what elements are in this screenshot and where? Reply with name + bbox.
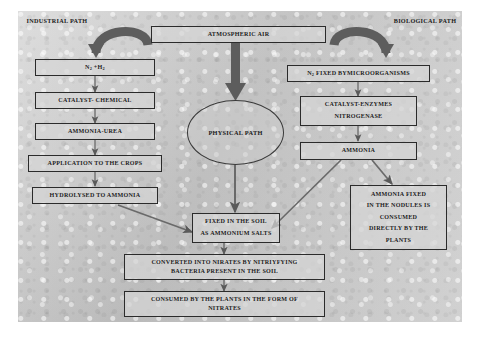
node-application-to-crops[interactable]: APPLICATION TO THE CROPS xyxy=(28,155,162,172)
node-ammonia-label: AMMONIA xyxy=(303,146,414,155)
node-fixed-in-the-soil-line2: AS AMMONIUM SALTS xyxy=(195,228,277,240)
industrial-path-curved-arrow xyxy=(88,32,148,58)
node-n2-h2[interactable]: N2 +H2 xyxy=(35,59,155,76)
node-fixed-in-the-soil[interactable]: FIXED IN THE SOIL AS AMMONIUM SALTS xyxy=(192,213,280,243)
node-fixed-in-the-soil-line1: FIXED IN THE SOIL xyxy=(195,216,277,228)
node-n2-fixed-by-microorganisms-label: N2 FIXED BYMICROORGANISMS xyxy=(290,69,427,79)
node-consumed-by-the-plants-line2: NITRATES xyxy=(127,304,322,313)
node-atmospheric-air[interactable]: ATMOSPHERIC AIR xyxy=(151,26,326,43)
node-catalyst-enzymes[interactable]: CATALYST-ENZYMES NITROGENASE xyxy=(300,96,417,126)
node-n2-h2-label: N2 +H2 xyxy=(38,63,152,73)
air-to-physical-path-arrow xyxy=(225,43,246,101)
node-hydrolysed-to-ammonia-label: HYDROLYSED TO AMMONIA xyxy=(35,191,155,200)
node-converted-into-nitrates-line1: CONVERTED INTO NIRATES BY NITRIYFYING xyxy=(127,258,322,267)
industrial-path-label-line2: PATH xyxy=(70,17,87,24)
node-catalyst-chemical-label: CATALYST- CHEMICAL xyxy=(38,96,152,105)
connector-ammonia-to-nodules xyxy=(372,160,392,184)
node-ammonia-fixed-in-nodules-line2: IN THE NODULES IS xyxy=(353,200,444,212)
node-converted-into-nitrates[interactable]: CONVERTED INTO NIRATES BY NITRIYFYING BA… xyxy=(124,254,325,280)
node-consumed-by-the-plants-line1: CONSUMED BY THE PLANTS IN THE FORM OF xyxy=(127,295,322,304)
node-ammonia[interactable]: AMMONIA xyxy=(300,142,417,160)
node-catalyst-enzymes-line1: CATALYST-ENZYMES xyxy=(303,99,414,111)
node-catalyst-chemical[interactable]: CATALYST- CHEMICAL xyxy=(35,92,155,109)
node-n2-fixed-by-microorganisms[interactable]: N2 FIXED BYMICROORGANISMS xyxy=(287,65,430,82)
node-ammonia-urea-label: AMMONIA-UREA xyxy=(38,127,152,136)
node-ammonia-fixed-in-nodules[interactable]: AMMONIA FIXED IN THE NODULES IS CONSUMED… xyxy=(350,185,447,250)
node-consumed-by-the-plants[interactable]: CONSUMED BY THE PLANTS IN THE FORM OF NI… xyxy=(124,291,325,317)
node-ammonia-fixed-in-nodules-line5: PLANTS xyxy=(353,235,444,247)
biological-path-label: BIOLOGICAL PATH xyxy=(390,16,460,27)
biological-path-label-line1: BIOLOGICAL xyxy=(394,17,437,24)
industrial-path-label: INDUSTRIAL PATH xyxy=(22,16,92,27)
connector-hydrolysed-to-soil xyxy=(118,205,192,232)
connector-ammonia-to-soil xyxy=(272,160,341,228)
node-hydrolysed-to-ammonia[interactable]: HYDROLYSED TO AMMONIA xyxy=(32,187,158,204)
node-catalyst-enzymes-line2: NITROGENASE xyxy=(303,111,414,123)
biological-path-curved-arrow xyxy=(334,32,394,58)
node-ammonia-fixed-in-nodules-line3: CONSUMED xyxy=(353,212,444,224)
node-ammonia-urea[interactable]: AMMONIA-UREA xyxy=(35,123,155,140)
node-ammonia-fixed-in-nodules-line4: DIRECTLY BY THE xyxy=(353,223,444,235)
diagram-canvas: INDUSTRIAL PATH BIOLOGICAL PATH ATMOSPHE… xyxy=(0,0,482,341)
node-physical-path[interactable]: PHYSICAL PATH xyxy=(187,100,284,165)
node-atmospheric-air-label: ATMOSPHERIC AIR xyxy=(154,30,323,39)
node-converted-into-nitrates-line2: BACTERIA PRESENT IN THE SOIL xyxy=(127,267,322,276)
industrial-path-label-line1: INDUSTRIAL xyxy=(27,17,69,24)
node-ammonia-fixed-in-nodules-line1: AMMONIA FIXED xyxy=(353,189,444,201)
node-physical-path-label: PHYSICAL PATH xyxy=(208,129,262,136)
node-application-to-crops-label: APPLICATION TO THE CROPS xyxy=(31,159,159,168)
biological-path-label-line2: PATH xyxy=(439,17,456,24)
